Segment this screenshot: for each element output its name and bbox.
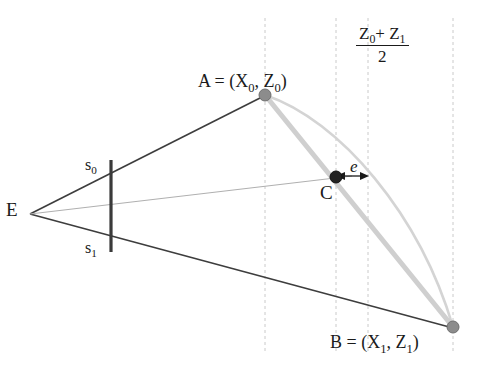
fraction-numerator: Z0+ Z1 [356,24,409,45]
label-point-c: C [320,183,333,202]
diagram-figure: E s0 s1 A = (X0, Z0) B = (X1, Z1) C e Z0… [0,0,480,376]
label-midpoint-fraction: Z0+ Z1 2 [356,24,409,67]
fraction-denominator: 2 [356,46,409,67]
label-point-a: A = (X0, Z0) [198,72,287,90]
label-point-b: B = (X1, Z1) [330,333,419,351]
vertex-b-dot [447,321,459,333]
ray-eye-to-a [30,95,266,214]
label-error: e [350,158,358,175]
segment-ab-object-space [265,95,453,327]
ray-eye-to-b [30,214,453,328]
error-arrow-head-right [360,172,369,180]
ray-eye-to-c [30,176,352,214]
label-scanline-s1: s1 [85,240,97,256]
label-scanline-s0: s0 [85,157,97,173]
label-eye: E [6,200,18,219]
